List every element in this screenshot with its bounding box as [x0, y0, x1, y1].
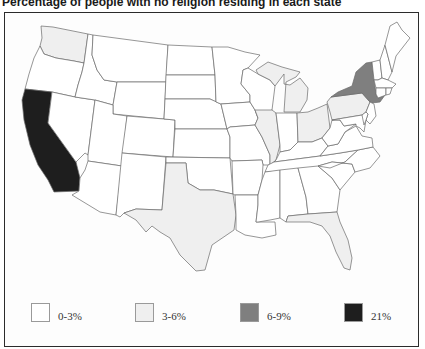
- state-colorado: [122, 116, 175, 157]
- state-arizona: [72, 161, 122, 215]
- state-arkansas: [232, 160, 263, 195]
- state-wyoming: [113, 82, 166, 119]
- state-south-dakota: [165, 75, 216, 102]
- state-kansas: [173, 129, 230, 158]
- us-choropleth-map: [0, 0, 425, 349]
- state-connecticut: [376, 88, 386, 98]
- state-north-dakota: [166, 45, 215, 75]
- state-new-mexico: [116, 153, 166, 217]
- state-florida: [286, 212, 352, 270]
- state-rhode-island: [386, 88, 392, 95]
- state-montana: [92, 35, 168, 82]
